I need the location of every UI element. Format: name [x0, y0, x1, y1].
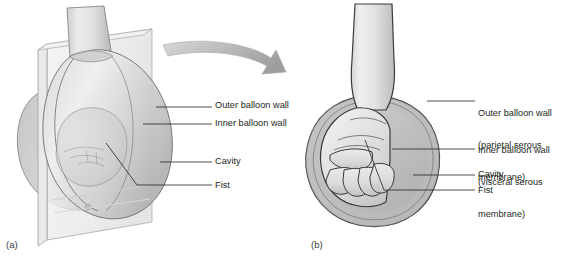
label-inner-balloon-wall-a: Inner balloon wall	[215, 118, 287, 129]
label-outer-line-1: Outer balloon wall	[478, 108, 552, 119]
label-inner-line-3: membrane)	[478, 209, 550, 220]
label-inner-line-1: Inner balloon wall	[478, 145, 550, 156]
label-cavity-b: Cavity	[478, 169, 504, 180]
finger-4-b	[370, 163, 394, 193]
panel-tag-b: (b)	[311, 239, 323, 250]
slab-speck	[85, 204, 91, 210]
label-outer-balloon-wall-a: Outer balloon wall	[215, 100, 289, 111]
arm-b	[351, 4, 394, 110]
label-fist-b: Fist	[478, 185, 493, 196]
figure-container: Outer balloon wall Inner balloon wall Ca…	[0, 0, 575, 269]
panel-b-illustration	[306, 4, 475, 226]
panel-tag-a: (a)	[6, 239, 18, 250]
label-inner-balloon-wall-b: Inner balloon wall (visceral serous memb…	[478, 124, 550, 241]
transition-arrow-icon	[163, 41, 286, 74]
label-cavity-a: Cavity	[215, 156, 241, 167]
label-fist-a: Fist	[215, 180, 230, 191]
